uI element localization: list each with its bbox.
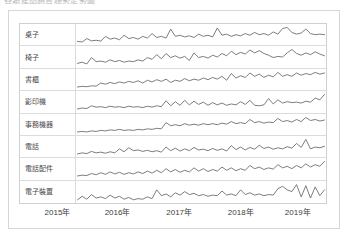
x-axis-tick-0: 2015年 (45, 207, 71, 218)
table-row: 書櫃 (20, 69, 326, 91)
table-row: 影印機 (20, 91, 326, 113)
sparkline-1 (76, 46, 326, 67)
row-label-2: 書櫃 (20, 69, 76, 90)
row-label-1: 椅子 (20, 46, 76, 67)
sparkline-cell-0 (76, 24, 326, 45)
row-label-5: 電話 (20, 136, 76, 157)
sparkline-cell-5 (76, 136, 326, 157)
table-row: 桌子 (20, 24, 326, 46)
x-axis-tick-3: 2018年 (228, 207, 254, 218)
sparkline-4 (76, 114, 326, 135)
chart-card: 桌子椅子書櫃影印機事務機器電話電話配件電子裝置 2015年2016年2017年2… (8, 10, 340, 229)
sparkline-cell-2 (76, 69, 326, 90)
table-row: 椅子 (20, 46, 326, 68)
sparkline-cell-3 (76, 91, 326, 112)
row-label-7: 電子裝置 (20, 181, 76, 203)
page-title-text: 各類產品銷售趨勢走勢圖 (4, 0, 204, 5)
sparkline-cell-1 (76, 46, 326, 67)
sparkline-2 (76, 69, 326, 90)
table-row: 電話配件 (20, 158, 326, 180)
sparkline-cell-4 (76, 114, 326, 135)
x-axis-tick-1: 2016年 (105, 207, 131, 218)
sparkline-0 (76, 24, 326, 45)
sparkline-table: 桌子椅子書櫃影印機事務機器電話電話配件電子裝置 (19, 23, 327, 204)
sparkline-5 (76, 136, 326, 157)
table-row: 事務機器 (20, 114, 326, 136)
row-label-6: 電話配件 (20, 158, 76, 179)
sparkline-3 (76, 91, 326, 112)
sparkline-cell-6 (76, 158, 326, 179)
page-title: 各類產品銷售趨勢走勢圖 (4, 0, 204, 7)
table-row: 電子裝置 (20, 181, 326, 203)
x-axis-tick-2: 2017年 (166, 207, 192, 218)
sparkline-6 (76, 158, 326, 179)
row-label-0: 桌子 (20, 24, 76, 45)
x-axis-tick-4: 2019年 (285, 207, 311, 218)
sparkline-cell-7 (76, 181, 326, 203)
x-axis-tick-labels: 2015年2016年2017年2018年2019年 (19, 207, 327, 221)
row-label-3: 影印機 (20, 91, 76, 112)
table-row: 電話 (20, 136, 326, 158)
sparkline-7 (76, 181, 326, 203)
row-label-4: 事務機器 (20, 114, 76, 135)
